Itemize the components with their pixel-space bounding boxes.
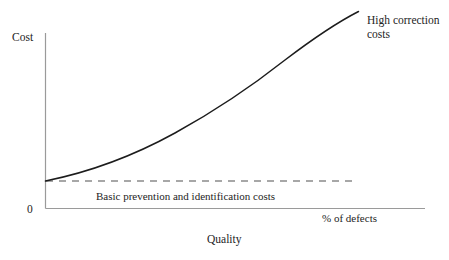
x-axis-secondary-label: % of defects (322, 212, 377, 225)
correction-cost-curve (46, 12, 359, 182)
basic-prevention-costs-annotation: Basic prevention and identification cost… (96, 190, 275, 203)
origin-label: 0 (27, 203, 33, 217)
high-correction-line-1: High correction (367, 14, 440, 26)
x-axis-label: Quality (207, 233, 242, 247)
high-correction-line-2: costs (367, 28, 390, 40)
high-correction-costs-annotation: High correctioncosts (367, 14, 445, 41)
cost-quality-chart: Cost 0 High correctioncosts Basic preven… (0, 0, 449, 260)
y-axis-label: Cost (12, 31, 33, 45)
